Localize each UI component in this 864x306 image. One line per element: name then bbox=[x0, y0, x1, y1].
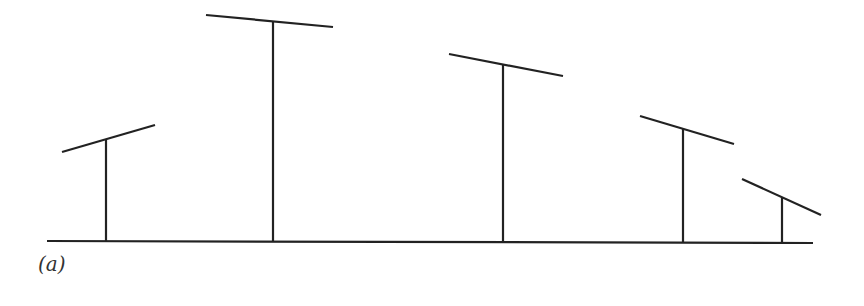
post-crossbar bbox=[449, 54, 563, 76]
baseline bbox=[47, 241, 813, 243]
post-crossbar bbox=[62, 125, 155, 152]
figure-label: (a) bbox=[38, 252, 66, 276]
posts-group bbox=[62, 15, 821, 243]
diagram-canvas bbox=[0, 0, 864, 306]
post-crossbar bbox=[206, 15, 333, 27]
post-5 bbox=[742, 179, 821, 243]
post-4 bbox=[640, 116, 734, 243]
post-3 bbox=[449, 54, 563, 242]
post-1 bbox=[62, 125, 155, 241]
post-crossbar bbox=[640, 116, 734, 144]
post-2 bbox=[206, 15, 333, 241]
